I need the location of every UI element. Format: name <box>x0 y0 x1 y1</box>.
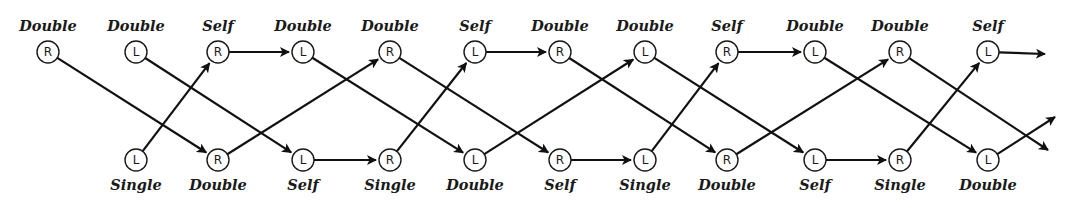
node-letter: L <box>472 153 479 167</box>
node-l-b9: L <box>804 149 826 171</box>
node-letter: R <box>896 153 904 167</box>
node-label: Self <box>287 176 321 193</box>
arrow-edge <box>824 58 976 153</box>
arrow-edge <box>57 58 206 153</box>
node-l-t3: L <box>292 41 314 63</box>
node-label: Self <box>799 176 833 193</box>
node-label: Self <box>202 17 236 34</box>
node-label: Double <box>615 17 674 34</box>
node-letter: R <box>723 153 731 167</box>
node-label: Double <box>785 17 844 34</box>
node-letter: R <box>386 153 394 167</box>
arrow-edge <box>484 60 633 155</box>
arrow-edge <box>736 59 888 154</box>
node-l-t7: L <box>634 41 656 63</box>
node-letter: R <box>44 45 52 59</box>
node-letter: R <box>214 153 222 167</box>
node-label: Double <box>188 176 247 193</box>
node-l-b1: L <box>125 149 147 171</box>
node-letter: R <box>556 153 564 167</box>
arrow-edge <box>909 58 1048 150</box>
node-label: Double <box>106 17 165 34</box>
node-r-b4: R <box>379 149 401 171</box>
labels: DoubleDoubleSelfDoubleDoubleSelfDoubleDo… <box>18 17 1017 193</box>
node-letter: L <box>642 45 649 59</box>
node-label: Double <box>360 17 419 34</box>
edges <box>57 52 1055 160</box>
node-r-t6: R <box>549 41 571 63</box>
arrow-edge <box>399 58 548 153</box>
node-l-b11: L <box>977 149 999 171</box>
node-label: Single <box>874 176 925 193</box>
node-l-b3: L <box>292 149 314 171</box>
node-label: Double <box>18 17 77 34</box>
node-letter: L <box>300 45 307 59</box>
node-l-b5: L <box>464 149 486 171</box>
arrow-edge <box>907 63 979 152</box>
arrow-edge <box>145 58 291 152</box>
node-r-b8: R <box>716 149 738 171</box>
node-label: Double <box>273 17 332 34</box>
nodes: RLRLRLRLRLRLLRLRLRLRLRL <box>37 41 999 171</box>
node-letter: L <box>985 153 992 167</box>
node-r-t0: R <box>37 41 59 63</box>
node-l-t9: L <box>804 41 826 63</box>
node-l-b7: L <box>634 149 656 171</box>
node-label: Double <box>958 176 1017 193</box>
arrow-edge <box>227 59 378 154</box>
node-r-b10: R <box>889 149 911 171</box>
node-l-t1: L <box>125 41 147 63</box>
node-l-t5: L <box>464 41 486 63</box>
node-letter: R <box>723 45 731 59</box>
node-letter: L <box>133 45 140 59</box>
node-label: Single <box>619 176 670 193</box>
node-r-t8: R <box>716 41 738 63</box>
state-sequence-diagram: RLRLRLRLRLRLLRLRLRLRLRL DoubleDoubleSelf… <box>0 0 1073 208</box>
node-r-t4: R <box>379 41 401 63</box>
node-label: Double <box>697 176 756 193</box>
node-r-t10: R <box>889 41 911 63</box>
arrow-edge <box>569 58 715 152</box>
node-label: Double <box>445 176 504 193</box>
node-label: Double <box>870 17 929 34</box>
node-r-b2: R <box>207 149 229 171</box>
node-letter: L <box>133 153 140 167</box>
arrow-edge <box>312 58 463 153</box>
node-letter: L <box>472 45 479 59</box>
node-label: Single <box>364 176 415 193</box>
node-letter: R <box>386 45 394 59</box>
node-letter: R <box>214 45 222 59</box>
node-r-b6: R <box>549 149 571 171</box>
node-letter: L <box>985 45 992 59</box>
node-l-t11: L <box>977 41 999 63</box>
node-r-t2: R <box>207 41 229 63</box>
arrow-edge <box>654 58 803 153</box>
arrow-edge <box>999 52 1045 54</box>
node-letter: R <box>896 45 904 59</box>
node-label: Double <box>530 17 589 34</box>
node-label: Self <box>544 176 578 193</box>
node-label: Single <box>110 176 161 193</box>
node-label: Self <box>459 17 493 34</box>
arrow-edge <box>143 63 210 151</box>
node-letter: L <box>300 153 307 167</box>
arrow-edge <box>397 63 467 151</box>
node-letter: L <box>812 45 819 59</box>
node-letter: L <box>642 153 649 167</box>
node-label: Self <box>711 17 745 34</box>
node-letter: R <box>556 45 564 59</box>
node-letter: L <box>812 153 819 167</box>
node-label: Self <box>972 17 1006 34</box>
